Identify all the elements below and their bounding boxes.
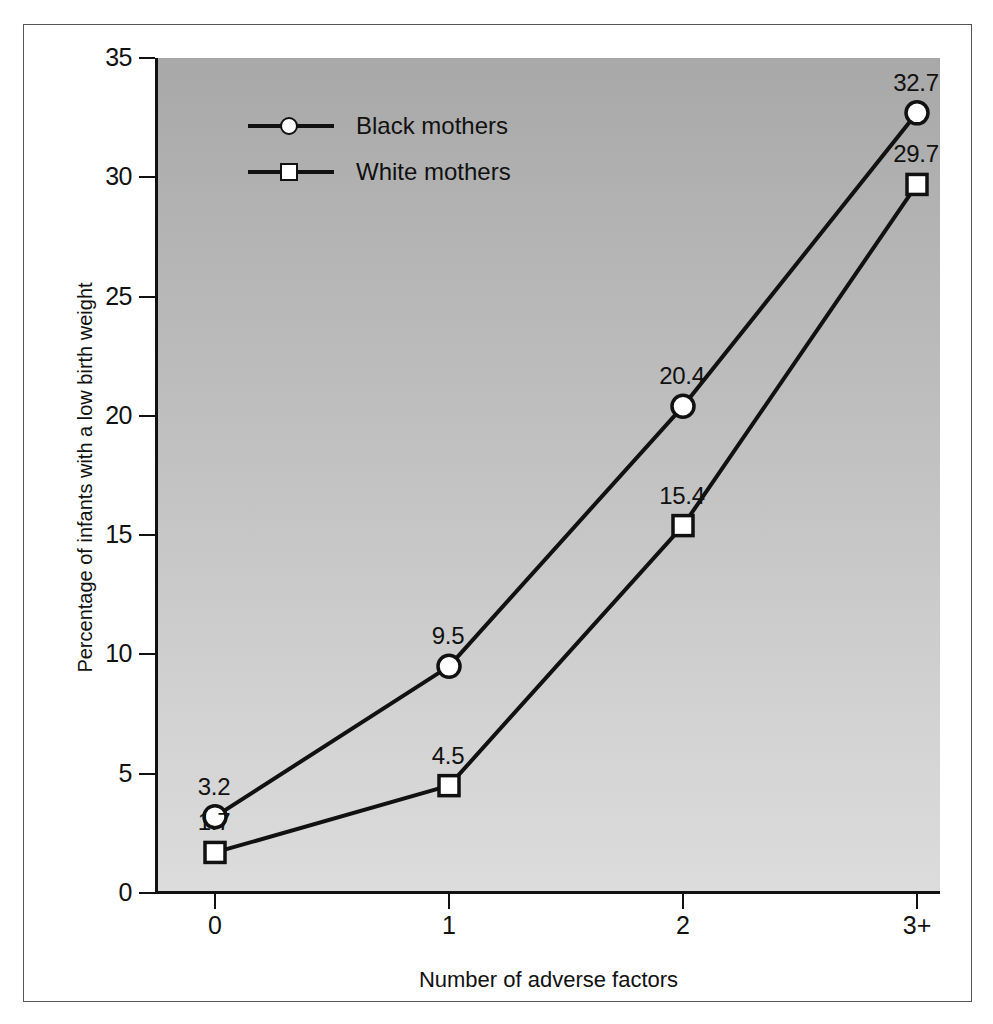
line-chart: 05101520253035 0123+ 3.29.520.432.71.74.…	[0, 0, 993, 1024]
data-point-label: 4.5	[432, 744, 464, 768]
data-point-label: 32.7	[893, 71, 939, 95]
x-tick-label: 2	[643, 912, 723, 939]
y-tick-mark	[139, 176, 155, 178]
data-point-label: 3.2	[198, 775, 230, 799]
x-tick-label: 3+	[877, 912, 957, 939]
x-axis-title: Number of adverse factors	[157, 967, 940, 993]
y-tick-mark	[139, 415, 155, 417]
legend-item-white-mothers: White mothers	[248, 149, 548, 195]
y-tick-label: 0	[48, 880, 132, 905]
x-tick-mark	[448, 894, 450, 909]
y-tick-mark	[139, 534, 155, 536]
legend-label: White mothers	[356, 158, 511, 186]
x-axis-line	[155, 891, 940, 894]
y-axis-line	[155, 58, 158, 894]
y-tick-mark	[139, 892, 155, 894]
legend-label: Black mothers	[356, 112, 508, 140]
y-tick-label: 35	[48, 45, 132, 70]
chart-legend: Black mothers White mothers	[248, 103, 548, 195]
legend-item-black-mothers: Black mothers	[248, 103, 548, 149]
data-point-label: 15.4	[659, 484, 705, 508]
y-tick-mark	[139, 773, 155, 775]
x-tick-mark	[682, 894, 684, 909]
data-point-label: 20.4	[659, 364, 705, 388]
legend-square-marker-icon	[248, 159, 334, 185]
data-point-label: 1.7	[198, 810, 230, 834]
data-point-label: 9.5	[432, 624, 464, 648]
legend-circle-marker-icon	[248, 113, 334, 139]
y-axis-title: Percentage of infants with a low birth w…	[74, 78, 97, 878]
x-tick-label: 1	[409, 912, 489, 939]
y-tick-mark	[139, 57, 155, 59]
x-tick-label: 0	[175, 912, 255, 939]
x-tick-mark	[916, 894, 918, 909]
data-point-label: 29.7	[893, 142, 939, 166]
y-tick-mark	[139, 296, 155, 298]
x-tick-mark	[214, 894, 216, 909]
y-tick-mark	[139, 653, 155, 655]
